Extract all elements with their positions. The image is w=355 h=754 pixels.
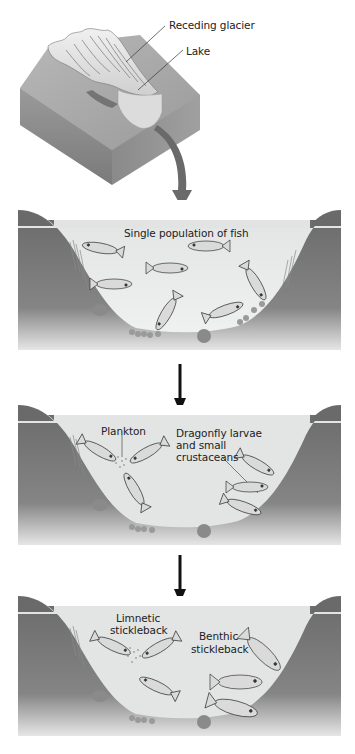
lake-panel-diverging-diets	[18, 405, 341, 545]
label-dragonfly-line3: crustaceans	[176, 451, 238, 463]
label-receding-glacier: Receding glacier	[169, 19, 255, 31]
label-single-population: Single population of fish	[124, 227, 249, 239]
label-benthic-line2: stickleback	[191, 643, 249, 655]
label-limnetic-line2: stickleback	[110, 624, 168, 636]
label-dragonfly-line1: Dragonfly larvae	[176, 427, 262, 439]
label-plankton: Plankton	[101, 425, 146, 437]
label-limnetic-line1: Limnetic	[116, 612, 160, 624]
label-dragonfly-line2: and small	[176, 439, 226, 451]
lake-panel-two-species	[18, 596, 341, 736]
rock	[197, 329, 211, 343]
label-benthic-line1: Benthic	[199, 630, 238, 642]
label-lake: Lake	[186, 45, 210, 57]
rock	[92, 304, 108, 316]
